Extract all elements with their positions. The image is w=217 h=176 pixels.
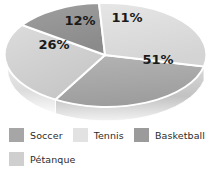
pie-label-tennis: 11%: [111, 10, 142, 25]
legend-label-petanque: Pétanque: [30, 154, 76, 165]
pie-plot-area: 51% 26% 12% 11%: [0, 0, 217, 122]
legend-swatch-basketball: [134, 128, 149, 142]
legend-row-1: Soccer Tennis Basketball: [9, 124, 217, 146]
legend-swatch-soccer: [9, 128, 24, 142]
legend-item-soccer[interactable]: Soccer: [9, 128, 63, 142]
pie-label-soccer: 51%: [142, 52, 173, 67]
legend-swatch-tennis: [73, 128, 88, 142]
legend-label-soccer: Soccer: [30, 130, 63, 141]
chart-legend: Soccer Tennis Basketball Pétanque: [0, 124, 217, 176]
legend-item-tennis[interactable]: Tennis: [73, 128, 124, 142]
legend-item-basketball[interactable]: Basketball: [134, 128, 205, 142]
legend-swatch-petanque: [9, 152, 24, 166]
pie-chart-figure: 51% 26% 12% 11% Soccer Tennis Basketball: [0, 0, 217, 176]
pie-label-basketball: 12%: [64, 13, 95, 28]
legend-row-2: Pétanque: [9, 148, 217, 170]
legend-label-basketball: Basketball: [155, 130, 205, 141]
pie-svg: 51% 26% 12% 11%: [0, 0, 217, 122]
legend-item-petanque[interactable]: Pétanque: [9, 152, 76, 166]
legend-label-tennis: Tennis: [94, 130, 124, 141]
pie-label-petanque: 26%: [38, 37, 69, 52]
